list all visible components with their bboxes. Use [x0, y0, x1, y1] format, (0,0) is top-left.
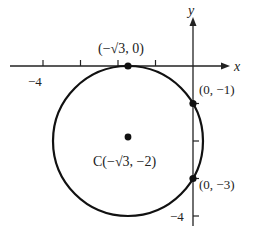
point-0-neg1-label: (0, −1): [199, 82, 235, 97]
x-axis-label: x: [233, 59, 241, 74]
coordinate-diagram: x −4 y −4 (−√3, 0) (0, −1) (0, −3) C(−√3…: [0, 0, 257, 231]
point-0-neg3-label: (0, −3): [199, 177, 235, 192]
tangent-point-label: (−√3, 0): [98, 41, 144, 57]
circle: [53, 66, 203, 216]
x-axis: [10, 60, 230, 70]
y-axis-arrow-icon: [190, 17, 197, 26]
y-axis: [190, 17, 200, 226]
x-tick-label: −4: [28, 74, 42, 89]
point-0-neg3: [189, 175, 196, 182]
point-center: [125, 134, 132, 141]
center-label: C(−√3, −2): [93, 154, 156, 170]
point-tangent: [124, 62, 131, 69]
x-axis-arrow-icon: [221, 63, 230, 70]
point-0-neg1: [189, 100, 196, 107]
y-tick-label: −4: [170, 209, 184, 224]
y-axis-label: y: [186, 3, 195, 18]
